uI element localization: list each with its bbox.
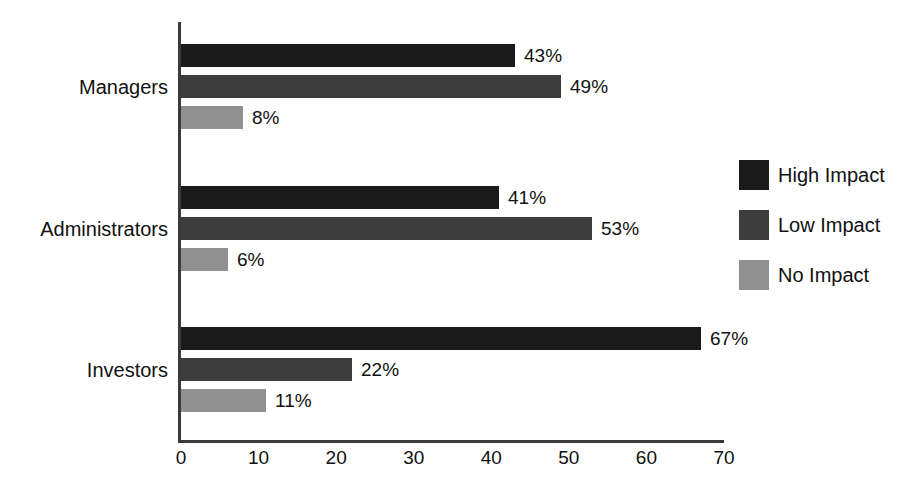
legend-item-low-impact[interactable]: Low Impact xyxy=(739,210,915,260)
x-tick-label-70: 70 xyxy=(704,447,744,469)
bar-value-label: 41% xyxy=(508,186,546,209)
legend-label: High Impact xyxy=(778,163,885,187)
legend-swatch-icon xyxy=(739,260,769,290)
category-label-investors: Investors xyxy=(0,360,168,380)
bar-value-label: 6% xyxy=(237,248,264,271)
bar-value-label: 8% xyxy=(252,106,279,129)
category-label-managers: Managers xyxy=(0,77,168,97)
x-tick-label-0: 0 xyxy=(161,447,201,469)
bar-investors-no-impact xyxy=(181,389,266,412)
bar-chart: 43%49%8%41%53%6%67%22%11% 01020304050607… xyxy=(0,0,915,488)
legend-swatch-icon xyxy=(739,160,769,190)
bar-managers-high-impact xyxy=(181,44,515,67)
x-tick-label-30: 30 xyxy=(394,447,434,469)
bar-administrators-no-impact xyxy=(181,248,228,271)
legend-label: Low Impact xyxy=(778,213,880,237)
bar-value-label: 22% xyxy=(361,358,399,381)
bar-value-label: 11% xyxy=(275,389,312,412)
x-tick-label-50: 50 xyxy=(549,447,589,469)
x-tick-label-40: 40 xyxy=(471,447,511,469)
bar-administrators-high-impact xyxy=(181,186,499,209)
bar-investors-high-impact xyxy=(181,327,701,350)
x-axis-line xyxy=(178,440,724,443)
bar-value-label: 49% xyxy=(570,75,608,98)
x-tick-label-20: 20 xyxy=(316,447,356,469)
legend-label: No Impact xyxy=(778,263,869,287)
chart-legend: High ImpactLow ImpactNo Impact xyxy=(739,160,915,310)
legend-item-no-impact[interactable]: No Impact xyxy=(739,260,915,310)
bar-managers-no-impact xyxy=(181,106,243,129)
bar-value-label: 53% xyxy=(601,217,639,240)
x-tick-label-10: 10 xyxy=(239,447,279,469)
bar-managers-low-impact xyxy=(181,75,561,98)
bar-value-label: 43% xyxy=(524,44,562,67)
legend-item-high-impact[interactable]: High Impact xyxy=(739,160,915,210)
bar-administrators-low-impact xyxy=(181,217,592,240)
category-label-administrators: Administrators xyxy=(0,219,168,239)
x-tick-label-60: 60 xyxy=(626,447,666,469)
legend-swatch-icon xyxy=(739,210,769,240)
bar-investors-low-impact xyxy=(181,358,352,381)
bar-value-label: 67% xyxy=(710,327,748,350)
